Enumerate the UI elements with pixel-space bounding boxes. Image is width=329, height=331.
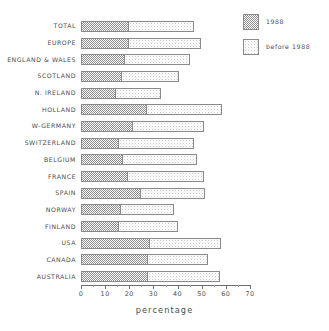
category-label: TOTAL <box>54 23 76 29</box>
bar-segment-before-1988 <box>150 239 220 248</box>
bar-segment-before-1988 <box>128 172 203 181</box>
bar-chart: TOTALEUROPEENGLAND & WALESSCOTLANDN. IRE… <box>0 0 329 331</box>
category-label: FRANCE <box>48 173 76 179</box>
category-label: USA <box>62 240 76 246</box>
bar-segment-1988 <box>82 55 125 64</box>
stacked-bar <box>81 88 161 99</box>
bar-segment-1988 <box>82 272 148 281</box>
stacked-bar <box>81 21 194 32</box>
bar-segment-before-1988 <box>129 22 193 31</box>
legend-swatch-before-1988 <box>243 39 259 55</box>
stacked-bar <box>81 204 174 215</box>
bar-row: TOTAL <box>81 21 250 32</box>
category-label: W-GERMANY <box>32 123 76 129</box>
x-tick-label: 50 <box>197 291 206 297</box>
x-tick-major <box>81 285 82 289</box>
bar-segment-1988 <box>82 205 121 214</box>
bar-segment-1988 <box>82 72 122 81</box>
bar-row: W-GERMANY <box>81 121 250 132</box>
category-label: EUROPE <box>47 40 76 46</box>
bar-segment-before-1988 <box>123 155 196 164</box>
bar-segment-1988 <box>82 122 133 131</box>
x-tick-minor <box>141 285 142 287</box>
category-label: BELGIUM <box>44 157 76 163</box>
bar-segment-before-1988 <box>147 105 221 114</box>
x-tick-major <box>178 285 179 289</box>
bar-segment-before-1988 <box>133 122 203 131</box>
bar-segment-before-1988 <box>141 189 204 198</box>
stacked-bar <box>81 188 205 199</box>
x-tick-minor <box>93 285 94 287</box>
bar-segment-1988 <box>82 239 150 248</box>
category-label: CANADA <box>46 257 76 263</box>
stacked-bar <box>81 221 178 232</box>
stacked-bar <box>81 54 190 65</box>
bar-segment-before-1988 <box>148 255 206 264</box>
bar-segment-1988 <box>82 222 119 231</box>
x-tick-major <box>226 285 227 289</box>
bar-segment-before-1988 <box>129 39 199 48</box>
category-label: HOLLAND <box>42 107 76 113</box>
bar-row: SPAIN <box>81 188 250 199</box>
bar-segment-1988 <box>82 105 147 114</box>
stacked-bar <box>81 104 222 115</box>
stacked-bar <box>81 238 221 249</box>
x-tick-label: 60 <box>221 291 230 297</box>
bar-segment-1988 <box>82 139 119 148</box>
legend-item-1988: 1988 <box>243 14 329 32</box>
bar-segment-1988 <box>82 39 129 48</box>
stacked-bar <box>81 38 201 49</box>
bar-segment-1988 <box>82 89 116 98</box>
x-tick-major <box>250 285 251 289</box>
bar-segment-before-1988 <box>119 222 176 231</box>
category-label: N. IRELAND <box>35 90 76 96</box>
x-tick-label: 20 <box>125 291 134 297</box>
legend-item-before-1988: before 1988 <box>243 39 329 57</box>
x-tick-label: 30 <box>149 291 158 297</box>
x-axis-title: percentage <box>0 306 329 314</box>
bar-row: FINLAND <box>81 221 250 232</box>
category-label: FINLAND <box>45 223 76 229</box>
bar-segment-before-1988 <box>125 55 188 64</box>
x-tick-major <box>129 285 130 289</box>
x-tick-major <box>153 285 154 289</box>
bar-row: HOLLAND <box>81 104 250 115</box>
stacked-bar <box>81 71 179 82</box>
chart-legend: 1988 before 1988 <box>243 14 329 64</box>
x-tick-minor <box>190 285 191 287</box>
bar-segment-1988 <box>82 155 123 164</box>
category-label: SWITZERLAND <box>25 140 76 146</box>
stacked-bar <box>81 121 204 132</box>
stacked-bar <box>81 171 204 182</box>
x-tick-major <box>105 285 106 289</box>
stacked-bar <box>81 138 194 149</box>
category-label: NORWAY <box>46 207 76 213</box>
category-label: ENGLAND & WALES <box>7 57 76 63</box>
bar-segment-1988 <box>82 22 129 31</box>
bar-segment-1988 <box>82 255 148 264</box>
bar-segment-before-1988 <box>119 139 193 148</box>
x-tick-minor <box>214 285 215 287</box>
bar-segment-before-1988 <box>116 89 160 98</box>
bar-row: NORWAY <box>81 204 250 215</box>
bar-row: AUSTRALIA <box>81 271 250 282</box>
x-tick-minor <box>166 285 167 287</box>
bar-row: ENGLAND & WALES <box>81 54 250 65</box>
bar-segment-1988 <box>82 189 141 198</box>
legend-label-1988: 1988 <box>266 19 284 25</box>
legend-label-before-1988: before 1988 <box>266 44 310 50</box>
bar-segment-before-1988 <box>121 205 173 214</box>
legend-swatch-1988 <box>243 14 259 30</box>
category-label: SPAIN <box>55 190 76 196</box>
stacked-bar <box>81 154 197 165</box>
bar-row: EUROPE <box>81 38 250 49</box>
category-label: SCOTLAND <box>37 73 76 79</box>
bar-row: CANADA <box>81 254 250 265</box>
bar-row: SWITZERLAND <box>81 138 250 149</box>
x-tick-minor <box>117 285 118 287</box>
x-tick-label: 10 <box>101 291 110 297</box>
bar-row: SCOTLAND <box>81 71 250 82</box>
x-tick-major <box>202 285 203 289</box>
bar-row: N. IRELAND <box>81 88 250 99</box>
x-tick-minor <box>238 285 239 287</box>
